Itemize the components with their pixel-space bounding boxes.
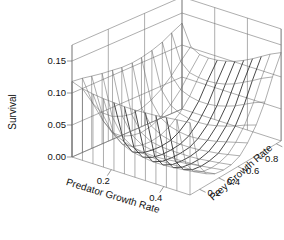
- y-axis-title: Prey Growth Rate: [207, 142, 275, 203]
- x-axis-title: Predator Growth Rate: [65, 176, 162, 215]
- z-axis-title: Survival: [7, 94, 18, 130]
- surface-plot-figure: 0.000.050.100.150.20.40.20.40.60.81.0 Su…: [0, 0, 284, 240]
- axis-label-layer: Survival Predator Growth Rate Prey Growt…: [0, 0, 284, 240]
